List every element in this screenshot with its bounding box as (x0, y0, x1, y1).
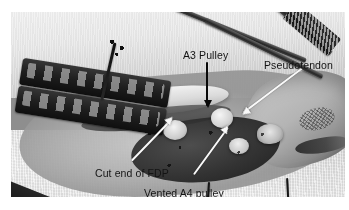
surgical-photograph: A3 Pulley Pseudotendon Cut end of FDP Ve… (11, 12, 345, 197)
label-pseudotendon: Pseudotendon (264, 59, 333, 71)
suture-knot (103, 34, 133, 60)
label-cut-end-fdp: Cut end of FDP (95, 167, 169, 179)
label-a3-pulley: A3 Pulley (183, 49, 228, 61)
label-vented-a4-pulley: Vented A4 pulley (144, 187, 224, 197)
figure-root: A3 Pulley Pseudotendon Cut end of FDP Ve… (0, 0, 349, 210)
